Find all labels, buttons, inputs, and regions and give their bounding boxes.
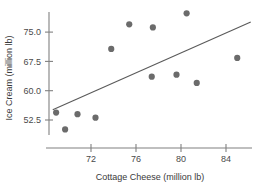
y-tick-label: 52.5: [23, 115, 41, 125]
chart-canvas: 52.560.067.575.0 72768084 Cottage Cheese…: [0, 0, 256, 188]
data-point: [184, 10, 190, 16]
data-point: [234, 55, 240, 61]
x-tick-label: 76: [131, 154, 141, 164]
x-axis-group: 72768084: [46, 144, 252, 164]
y-axis-tick-labels: 52.560.067.575.0: [23, 27, 41, 125]
data-point: [92, 115, 98, 121]
x-axis-tick-labels: 72768084: [86, 154, 231, 164]
data-points-group: [53, 10, 240, 132]
scatter-plot-figure: 52.560.067.575.0 72768084 Cottage Cheese…: [0, 0, 256, 188]
data-point: [150, 24, 156, 30]
data-point: [53, 109, 59, 115]
data-point: [149, 74, 155, 80]
y-tick-label: 60.0: [23, 86, 41, 96]
data-point: [74, 111, 80, 117]
x-tick-label: 80: [176, 154, 186, 164]
y-axis-title: Ice Cream (million lb): [4, 35, 14, 120]
regression-line: [53, 22, 251, 110]
data-point: [108, 46, 114, 52]
y-tick-label: 67.5: [23, 57, 41, 67]
x-tick-label: 84: [221, 154, 231, 164]
y-axis-group: 52.560.067.575.0: [23, 12, 53, 135]
data-point: [194, 80, 200, 86]
x-axis-title: Cottage Cheese (million lb): [96, 172, 205, 182]
data-point: [126, 21, 132, 27]
x-tick-label: 72: [86, 154, 96, 164]
y-tick-label: 75.0: [23, 27, 41, 37]
data-point: [62, 126, 68, 132]
data-point: [173, 72, 179, 78]
